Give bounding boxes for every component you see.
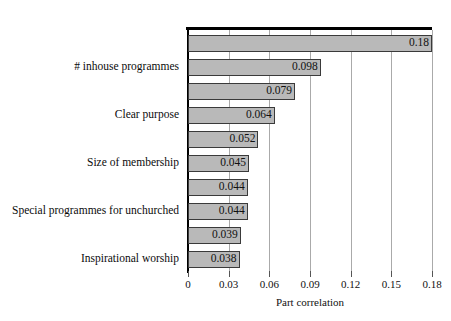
bar: 0.052 [188, 131, 258, 148]
bar-value-label: 0.098 [289, 61, 318, 73]
category-axis-labels: # inhouse programmes Clear purpose Size … [0, 31, 183, 271]
bar-value-label: 0.044 [216, 205, 245, 217]
x-tick-label: 0.06 [260, 279, 279, 290]
category-row: Special programmes for unchurched [0, 199, 183, 223]
bar-value-label: 0.052 [227, 133, 256, 145]
x-tick-label: 0.12 [341, 279, 360, 290]
bar: 0.045 [188, 155, 249, 172]
category-row [0, 223, 183, 247]
bar-row: 0.064 [188, 103, 432, 127]
bar-row: 0.044 [188, 199, 432, 223]
bar: 0.079 [188, 83, 295, 100]
bar-row: 0.044 [188, 175, 432, 199]
bar: 0.038 [188, 251, 240, 268]
bar-row: 0.038 [188, 247, 432, 271]
x-tick [310, 271, 311, 277]
x-tick-label: 0.03 [219, 279, 238, 290]
category-row [0, 175, 183, 199]
part-correlation-bar-chart: # inhouse programmes Clear purpose Size … [0, 0, 451, 321]
category-row: Inspirational worship [0, 247, 183, 271]
category-label: Size of membership [87, 157, 183, 169]
category-row: Size of membership [0, 151, 183, 175]
category-row: Clear purpose [0, 103, 183, 127]
bar-row: 0.18 [188, 31, 432, 55]
x-axis-title: Part correlation [188, 297, 432, 308]
x-tick [351, 271, 352, 277]
bar: 0.044 [188, 179, 248, 196]
bar: 0.039 [188, 227, 241, 244]
x-tick [269, 271, 270, 277]
category-label: Inspirational worship [81, 253, 183, 265]
x-tick-label: 0 [185, 279, 191, 290]
bar-value-label: 0.064 [243, 109, 272, 121]
bar: 0.18 [188, 35, 432, 52]
bars-container: 0.18 0.098 0.079 0.064 0.052 0.045 [188, 31, 432, 271]
category-label: Clear purpose [115, 109, 183, 121]
x-tick-label: 0.15 [382, 279, 401, 290]
x-tick [229, 271, 230, 277]
bar-row: 0.039 [188, 223, 432, 247]
category-row: # inhouse programmes [0, 55, 183, 79]
category-label: Special programmes for unchurched [12, 205, 183, 217]
bar-value-label: 0.044 [216, 181, 245, 193]
bar: 0.064 [188, 107, 275, 124]
x-tick [391, 271, 392, 277]
bar-value-label: 0.039 [209, 229, 238, 241]
x-tick-label: 0.18 [422, 279, 441, 290]
category-row [0, 127, 183, 151]
x-tick [188, 271, 189, 277]
bar-row: 0.098 [188, 55, 432, 79]
category-row [0, 31, 183, 55]
bar-row: 0.079 [188, 79, 432, 103]
gridline-0.18 [432, 30, 433, 271]
bar-row: 0.045 [188, 151, 432, 175]
bar: 0.044 [188, 203, 248, 220]
category-label: # inhouse programmes [74, 61, 183, 73]
bar: 0.098 [188, 59, 321, 76]
bar-value-label: 0.045 [217, 157, 246, 169]
bar-value-label: 0.079 [263, 85, 292, 97]
x-axis: 0 0.03 0.06 0.09 0.12 0.15 0.18 Part cor… [188, 271, 432, 321]
bar-row: 0.052 [188, 127, 432, 151]
bar-value-label: 0.038 [208, 253, 237, 265]
bar-value-label: 0.18 [406, 37, 429, 49]
x-tick [432, 271, 433, 277]
category-row [0, 79, 183, 103]
x-tick-label: 0.09 [300, 279, 319, 290]
